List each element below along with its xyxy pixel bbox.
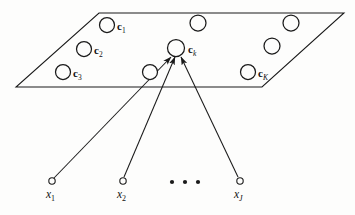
- ellipsis-dots: [170, 180, 200, 184]
- prototype-label-ck: ck: [188, 44, 196, 57]
- prototype-circle-c3: [56, 65, 71, 80]
- data-point-circle-group: [49, 178, 243, 184]
- data-point-label-xJ: xJ: [234, 189, 243, 203]
- data-point-label-x2: x2: [117, 189, 126, 203]
- prototype-circle-top-mid: [190, 15, 206, 31]
- diagram-canvas: [0, 0, 355, 215]
- prototype-label-c2: c2: [94, 45, 103, 58]
- data-point-circle-xJ: [237, 178, 243, 184]
- prototype-circle-ck: [168, 40, 185, 57]
- prototype-circle-low-mid: [143, 65, 158, 80]
- ellipsis-dot-1: [170, 180, 174, 184]
- figure-container: c1c2c3ckcKx1x2xJ: [0, 0, 355, 215]
- ellipsis-dot-2: [183, 180, 187, 184]
- prototype-label-c1: c1: [117, 21, 126, 34]
- prototype-circle-mid-right: [264, 38, 280, 54]
- prototype-circle-top-right: [283, 15, 299, 31]
- arrow-xJ-ck: [181, 57, 238, 177]
- data-point-circle-x2: [120, 178, 126, 184]
- data-point-circle-x1: [49, 178, 55, 184]
- ellipsis-dot-3: [196, 180, 200, 184]
- prototype-circle-cK: [241, 65, 256, 80]
- prototype-label-c3: c3: [73, 68, 82, 81]
- prototype-label-cK: cK: [258, 68, 268, 81]
- prototype-circle-c1: [100, 18, 115, 33]
- prototype-circle-c2: [77, 42, 92, 57]
- data-point-label-x1: x1: [46, 189, 55, 203]
